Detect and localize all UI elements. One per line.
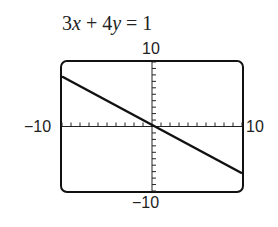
graph-plot <box>0 0 278 227</box>
axes <box>62 62 242 191</box>
